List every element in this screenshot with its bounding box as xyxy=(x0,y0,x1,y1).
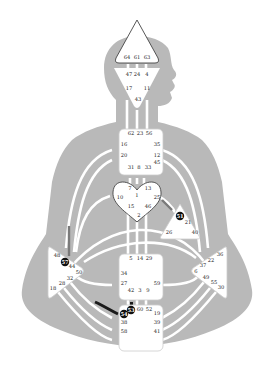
gate-36: 36 xyxy=(217,251,224,257)
gate-22: 22 xyxy=(208,257,215,263)
gate-45: 45 xyxy=(154,159,161,165)
gate-43: 43 xyxy=(135,96,142,102)
gate-40: 40 xyxy=(192,229,199,235)
gate-59: 59 xyxy=(154,280,161,286)
gate-10: 10 xyxy=(117,194,124,200)
gate-24: 24 xyxy=(134,71,141,77)
gate-13: 13 xyxy=(145,185,152,191)
gate-39: 39 xyxy=(154,319,161,325)
gate-23: 23 xyxy=(137,130,144,136)
gate-28: 28 xyxy=(59,280,66,286)
gate-32: 32 xyxy=(67,275,74,281)
sacral-center[interactable]: 5 14 29 34 27 59 42 3 9 xyxy=(119,254,163,300)
gate-33: 33 xyxy=(145,164,152,170)
gate-54: 54 xyxy=(120,311,128,317)
gate-25: 25 xyxy=(154,194,161,200)
gate-31: 31 xyxy=(128,164,135,170)
gate-49: 49 xyxy=(203,274,210,280)
gate-16: 16 xyxy=(121,141,128,147)
gate-27: 27 xyxy=(121,280,128,286)
gate-58: 58 xyxy=(121,328,128,334)
gate-62: 62 xyxy=(128,130,135,136)
gate-63: 63 xyxy=(144,54,151,60)
gate-12: 12 xyxy=(154,152,161,158)
gate-41: 41 xyxy=(154,328,161,334)
gate-42: 42 xyxy=(128,287,135,293)
gate-21: 21 xyxy=(185,219,192,225)
gate-6: 6 xyxy=(194,268,197,274)
gate-35: 35 xyxy=(154,141,161,147)
root-center[interactable]: 53 60 52 54 19 38 39 58 41 xyxy=(119,305,163,351)
gate-61: 61 xyxy=(134,54,141,60)
gate-38: 38 xyxy=(121,319,128,325)
gate-3: 3 xyxy=(138,287,141,293)
gate-56: 56 xyxy=(146,130,153,136)
gate-48: 48 xyxy=(54,252,61,258)
gate-50: 50 xyxy=(76,269,83,275)
gate-30: 30 xyxy=(218,284,225,290)
throat-center[interactable]: 62 23 56 16 35 20 12 45 31 8 33 xyxy=(119,129,163,175)
bodygraph-chart: 64 61 63 47 24 4 17 11 43 62 23 56 16 35… xyxy=(0,0,275,379)
gate-55: 55 xyxy=(211,279,218,285)
gate-52: 52 xyxy=(146,306,153,312)
gate-8: 8 xyxy=(137,164,140,170)
gate-64: 64 xyxy=(124,54,131,60)
gate-19: 19 xyxy=(154,310,161,316)
gate-17: 17 xyxy=(126,85,133,91)
gate-1: 1 xyxy=(135,192,138,198)
gate-5: 5 xyxy=(129,255,132,261)
gate-53: 53 xyxy=(127,307,135,313)
gate-14: 14 xyxy=(137,255,144,261)
gate-37: 37 xyxy=(200,262,207,268)
gate-47: 47 xyxy=(126,71,133,77)
gate-15: 15 xyxy=(128,203,135,209)
gate-20: 20 xyxy=(121,152,128,158)
gate-26: 26 xyxy=(166,229,173,235)
gate-9: 9 xyxy=(146,287,149,293)
gate-46: 46 xyxy=(145,203,152,209)
gate-2: 2 xyxy=(137,212,140,218)
gate-34: 34 xyxy=(121,270,128,276)
gate-18: 18 xyxy=(50,285,57,291)
gate-29: 29 xyxy=(146,255,153,261)
gate-51: 51 xyxy=(176,213,184,219)
gate-7: 7 xyxy=(128,185,131,191)
gate-60: 60 xyxy=(137,306,144,312)
gate-11: 11 xyxy=(144,85,151,91)
